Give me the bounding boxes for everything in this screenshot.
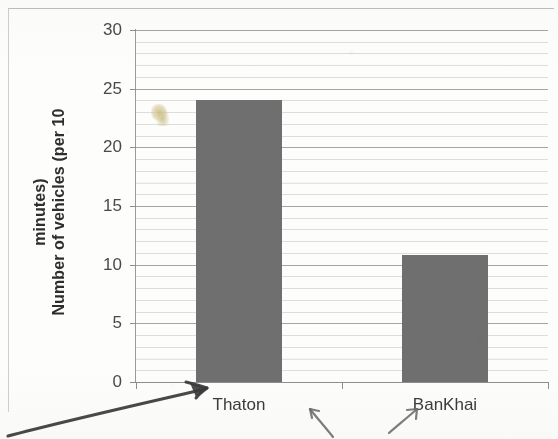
y-tick-label: 30: [82, 21, 122, 38]
y-axis-tick-labels: 051015202530: [82, 0, 122, 439]
y-tick-mark: [130, 147, 136, 148]
x-tick-label-bankhai: BanKhai: [342, 396, 548, 413]
y-tick-mark: [130, 89, 136, 90]
x-tick-mark: [342, 382, 343, 389]
gridline-major: [136, 89, 548, 90]
scanned-chart-page: 051015202530 Number of vehicles (per 10 …: [0, 0, 558, 439]
bar-bankhai: [402, 255, 487, 382]
yellow-highlighter-smudge-icon: [151, 104, 170, 126]
arrow-between-bars-icon: [310, 409, 333, 437]
gridline-minor: [136, 42, 548, 43]
y-tick-mark: [130, 30, 136, 31]
bar-thaton: [196, 100, 281, 382]
y-tick-mark: [130, 323, 136, 324]
x-tick-mark: [136, 382, 137, 389]
y-tick-label: 25: [82, 80, 122, 97]
gridline-minor: [136, 53, 548, 54]
plot-area: [136, 30, 548, 382]
y-tick-mark: [130, 206, 136, 207]
x-tick-mark: [548, 382, 549, 389]
x-tick-label-thaton: Thaton: [136, 396, 342, 413]
gridline-minor: [136, 77, 548, 78]
gridline-minor: [136, 65, 548, 66]
y-tick-label: 10: [82, 256, 122, 273]
y-tick-label: 5: [82, 314, 122, 331]
y-tick-label: 20: [82, 138, 122, 155]
y-tick-mark: [130, 265, 136, 266]
gridline-major: [136, 30, 548, 31]
y-tick-label: 0: [82, 373, 122, 390]
y-tick-label: 15: [82, 197, 122, 214]
